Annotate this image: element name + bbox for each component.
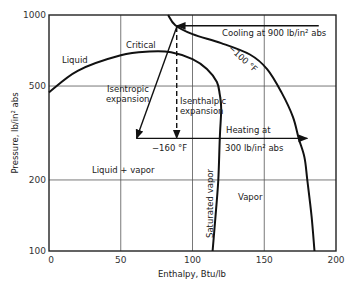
label-isenthalpic-2: expansion <box>180 106 223 116</box>
label-vapor: Vapor <box>238 192 263 202</box>
y-tick-label: 200 <box>29 175 46 185</box>
label-heating-1: Heating at <box>226 125 271 135</box>
curves <box>49 15 315 251</box>
y-tick-label: 500 <box>29 81 46 91</box>
process-lines <box>137 26 319 139</box>
axis-x-label: Enthalpy, Btu/lb <box>158 269 226 279</box>
axis-y-label: Pressure, lb/in² abs <box>10 92 20 174</box>
label-liquid: Liquid <box>62 55 88 65</box>
label-liquid-vapor: Liquid + vapor <box>92 165 155 175</box>
saturation-dome-curve <box>49 51 221 251</box>
label-heating-2: 300 lb/in² abs <box>225 143 284 153</box>
x-tick-label: 0 <box>48 255 54 265</box>
label-isenthalpic-1: Isenthalpic <box>180 96 227 106</box>
label-critical: Critical <box>126 40 156 50</box>
label-cooling: Cooling at 900 lb/in² abs <box>222 28 327 38</box>
x-tick-label: 150 <box>256 255 273 265</box>
grid-lines <box>49 15 336 251</box>
x-tick-label: 100 <box>184 255 201 265</box>
label-saturated-vapor: Saturated vapor <box>205 168 215 238</box>
label-minus160: −160 °F <box>152 143 187 153</box>
y-tick-label: 1000 <box>23 10 46 20</box>
y-tick-label: 100 <box>29 246 46 256</box>
x-tick-label: 50 <box>115 255 127 265</box>
label-isentropic-1: Isentropic <box>107 84 149 94</box>
label-isentropic-2: expansion <box>106 94 149 104</box>
pressure-enthalpy-chart: 0501001502001002005001000 Enthalpy, Btu/… <box>0 0 355 289</box>
tick-labels: 0501001502001002005001000 <box>23 10 345 265</box>
x-tick-label: 200 <box>327 255 344 265</box>
